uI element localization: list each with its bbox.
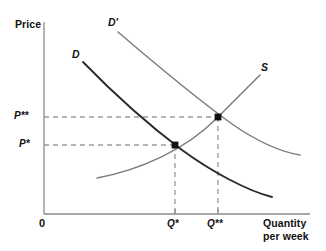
supply-demand-figure: Price D' D S P** P* 0 Q* Q** Quantity pe… xyxy=(0,0,326,251)
y-tick-label-p1: P* xyxy=(19,139,30,149)
shifted-demand-curve xyxy=(118,32,300,155)
origin-label: 0 xyxy=(39,218,45,229)
y-axis-title: Price xyxy=(15,19,41,30)
x-axis-title-line2: per week xyxy=(263,231,309,242)
plot-canvas xyxy=(0,0,326,251)
equilibrium-marker-2 xyxy=(215,114,222,121)
curve-label-d-prime: D' xyxy=(108,17,118,28)
equilibrium-marker-1 xyxy=(172,142,179,149)
curve-label-d: D xyxy=(72,49,80,60)
curve-label-s: S xyxy=(261,62,268,73)
x-tick-label-q2: Q** xyxy=(207,219,223,229)
y-tick-label-p2: P** xyxy=(14,111,28,121)
x-tick-label-q1: Q* xyxy=(167,219,179,229)
x-axis-title-line1: Quantity xyxy=(263,218,306,229)
